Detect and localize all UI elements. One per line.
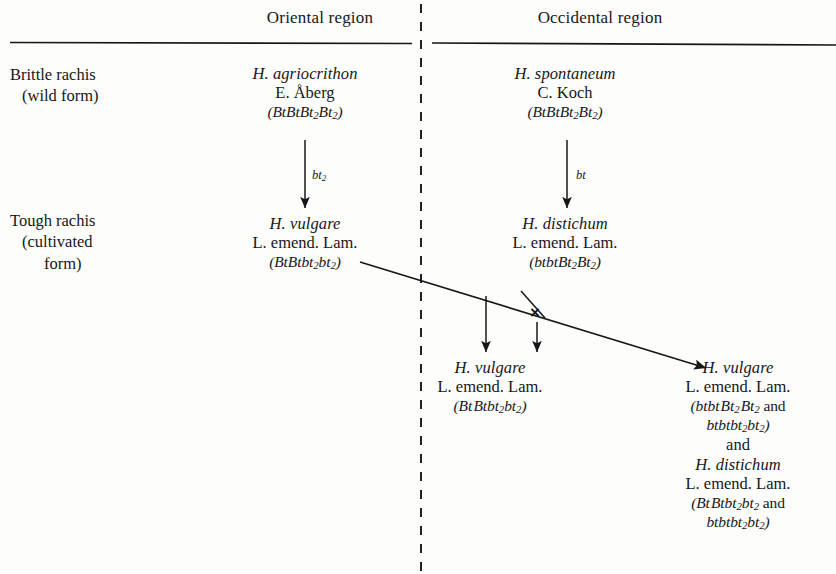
result-distichum-right-genotype-line2: btbtbt2bt2)	[640, 513, 836, 532]
taxon-distichum-occidental-genotype: (btbtBt2Bt2)	[455, 253, 675, 272]
cross-symbol: ×	[530, 304, 540, 321]
taxon-agriocrithon-species: H. agriocrithon	[195, 64, 415, 83]
result-distichum-right-authority: L. emend. Lam.	[640, 474, 836, 493]
taxon-spontaneum-authority: C. Koch	[455, 83, 675, 102]
mutation-arrow-label-bt: bt	[576, 168, 586, 183]
row-label-brittle-line2: (wild form)	[10, 85, 99, 106]
row-label-brittle-line1: Brittle rachis	[10, 65, 96, 84]
taxon-vulgare-oriental-genotype: (BtBtbt2bt2)	[195, 253, 415, 272]
result-vulgare-right-genotype-line2: btbtbt2bt2)	[640, 416, 836, 435]
header-rule-right	[432, 43, 836, 45]
column-header-oriental: Oriental region	[170, 8, 470, 28]
taxon-agriocrithon-authority: E. Åberg	[195, 83, 415, 102]
cross-symbol-glyph: ×	[530, 303, 540, 322]
row-label-tough-line2: (cultivated	[10, 231, 95, 252]
result-vulgare-middle-authority: L. emend. Lam.	[400, 377, 580, 396]
mutation-arrow-label-bt2: bt2	[312, 168, 326, 183]
result-vulgare-middle: H. vulgare L. emend. Lam. (Bt Btbt2bt2)	[400, 358, 580, 416]
row-label-brittle-rachis: Brittle rachis (wild form)	[10, 64, 99, 107]
taxon-distichum-occidental-authority: L. emend. Lam.	[455, 233, 675, 252]
taxon-distichum-occidental: H. distichum L. emend. Lam. (btbtBt2Bt2)	[455, 214, 675, 272]
taxon-agriocrithon: H. agriocrithon E. Åberg (BtBtBt2Bt2)	[195, 64, 415, 122]
row-label-tough-line3: form)	[10, 253, 95, 274]
header-rule-left	[10, 43, 412, 44]
result-group-right: H. vulgare L. emend. Lam. (btbt Bt2 Bt2 …	[640, 358, 836, 532]
column-header-occidental-label: Occidental region	[538, 8, 663, 27]
taxon-vulgare-oriental-authority: L. emend. Lam.	[195, 233, 415, 252]
taxon-spontaneum-species: H. spontaneum	[455, 64, 675, 83]
result-distichum-right-genotype-line1: (Bt Btbt2bt2 and	[640, 494, 836, 513]
taxon-vulgare-oriental: H. vulgare L. emend. Lam. (BtBtbt2bt2)	[195, 214, 415, 272]
result-vulgare-right-genotype-line1: (btbt Bt2 Bt2 and	[640, 397, 836, 416]
taxon-distichum-occidental-species: H. distichum	[455, 214, 675, 233]
column-header-occidental: Occidental region	[450, 8, 750, 28]
column-header-oriental-label: Oriental region	[267, 8, 373, 27]
result-distichum-right-species: H. distichum	[640, 455, 836, 474]
figure-canvas: Oriental region Occidental region Brittl…	[0, 0, 836, 574]
taxon-spontaneum-genotype: (BtBtBt2Bt2)	[455, 103, 675, 122]
taxon-spontaneum: H. spontaneum C. Koch (BtBtBt2Bt2)	[455, 64, 675, 122]
taxon-vulgare-oriental-species: H. vulgare	[195, 214, 415, 233]
result-conjunction: and	[640, 435, 836, 454]
result-vulgare-middle-genotype: (Bt Btbt2bt2)	[400, 397, 580, 416]
taxon-agriocrithon-genotype: (BtBtBt2Bt2)	[195, 103, 415, 122]
result-vulgare-middle-species: H. vulgare	[400, 358, 580, 377]
result-vulgare-right-species: H. vulgare	[640, 358, 836, 377]
row-label-tough-rachis: Tough rachis (cultivated form)	[10, 210, 95, 274]
result-vulgare-right-authority: L. emend. Lam.	[640, 377, 836, 396]
row-label-tough-line1: Tough rachis	[10, 211, 95, 230]
